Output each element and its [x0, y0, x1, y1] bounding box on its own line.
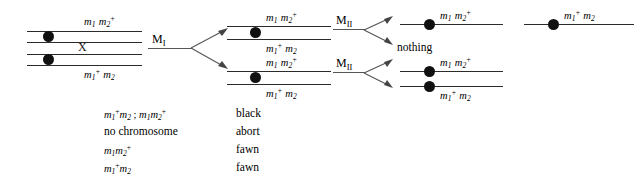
meiosis-two-upper-label: MII — [336, 13, 352, 29]
product-1-centromere — [424, 19, 435, 30]
product-4-centromere — [424, 81, 435, 92]
meiosis-two-lower-arrow-group — [363, 56, 397, 90]
nothing-product-label: nothing — [397, 41, 432, 53]
dyad-upper-bottom-genotype-label: m1+m2 — [266, 41, 297, 56]
product-3-centromere — [424, 66, 435, 77]
chromosome-segregation-diagram: m1m2+ X m1+m2 MI — [0, 0, 644, 191]
legend-genotype: m1+m2 — [104, 161, 131, 176]
dyad-upper-top-genotype-label: m1m2+ — [266, 10, 297, 25]
dyad-lower-chromatid-line-1 — [227, 71, 331, 72]
product-3-line — [400, 71, 503, 72]
legend-phenotype: fawn — [236, 143, 259, 155]
crossover-x-mark: X — [78, 41, 87, 53]
dyad-upper-chromatid-line-1 — [227, 26, 331, 27]
meiosis-one-stem — [148, 48, 192, 49]
dyad-upper-centromere — [250, 27, 261, 38]
product-1-line — [400, 24, 503, 25]
parent-chromatid-line-4 — [27, 65, 142, 66]
meiosis-one-label: MI — [152, 32, 166, 48]
product-4-line — [400, 86, 503, 87]
legend-phenotype: black — [236, 107, 261, 119]
meiosis-two-upper-stem — [333, 29, 365, 30]
meiosis-two-lower-label: MII — [336, 56, 352, 72]
legend-phenotype: fawn — [236, 161, 259, 173]
product-2-line — [524, 24, 634, 25]
parent-centromere-lower — [43, 54, 54, 65]
dyad-lower-bottom-genotype-label: m1+m2 — [266, 86, 297, 101]
legend-genotype: m1m2+ — [104, 143, 131, 158]
product-2-genotype-label: m1+m2 — [564, 8, 595, 23]
legend-genotype: no chromosome — [104, 125, 178, 137]
product-2-centromere — [548, 19, 559, 30]
dyad-lower-chromatid-line-2 — [227, 84, 331, 85]
parent-centromere-upper — [43, 31, 54, 42]
meiosis-two-lower-stem — [333, 72, 365, 73]
meiosis-two-upper-arrow-group — [363, 13, 397, 47]
product-4-genotype-label: m1+m2 — [440, 88, 471, 103]
legend-phenotype: abort — [236, 125, 260, 137]
legend-genotype: m1+m2 ; m1m2+ — [104, 107, 166, 122]
parent-top-genotype-label: m1m2+ — [84, 14, 115, 29]
dyad-lower-centromere — [250, 72, 261, 83]
dyad-lower-top-genotype-label: m1m2+ — [266, 55, 297, 70]
parent-bottom-genotype-label: m1+m2 — [84, 67, 115, 82]
product-3-genotype-label: m1m2+ — [440, 55, 471, 70]
dyad-upper-chromatid-line-2 — [227, 39, 331, 40]
meiosis-one-arrow-group — [190, 26, 232, 72]
product-1-genotype-label: m1m2+ — [440, 8, 471, 23]
